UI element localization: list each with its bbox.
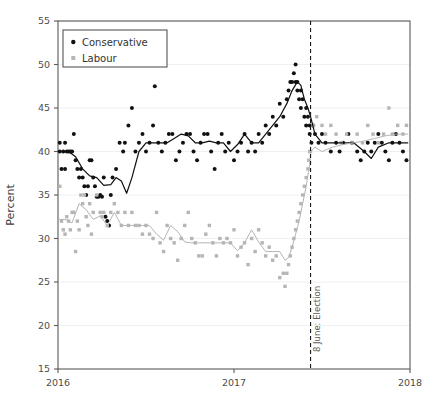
data-point-marker <box>89 158 93 162</box>
data-point-marker <box>268 246 271 249</box>
data-point-marker <box>292 71 296 75</box>
data-point-marker <box>174 158 178 162</box>
y-axis-title: Percent <box>4 184 17 226</box>
data-point-marker <box>404 158 408 162</box>
data-point-marker <box>181 141 185 145</box>
y-tick-label: 20 <box>38 320 50 331</box>
data-point-marker <box>83 193 86 196</box>
data-point-marker <box>264 123 268 127</box>
data-point-marker <box>253 250 256 253</box>
data-point-marker <box>151 237 154 240</box>
data-point-marker <box>195 158 199 162</box>
data-point-marker <box>285 272 288 275</box>
data-point-marker <box>232 228 235 231</box>
data-point-marker <box>133 150 137 154</box>
data-point-marker <box>58 185 61 188</box>
data-point-marker <box>160 150 164 154</box>
data-point-marker <box>118 141 122 145</box>
data-point-marker <box>213 167 217 171</box>
poll-tracker-scatter-chart: 152025303540455055 201620172018 8 June: … <box>0 0 441 416</box>
data-point-marker <box>95 193 98 196</box>
data-point-marker <box>172 241 175 244</box>
data-point-marker <box>81 202 84 205</box>
data-point-marker <box>278 276 281 279</box>
chart-legend[interactable]: ConservativeLabour <box>63 30 167 67</box>
data-point-marker <box>366 124 369 127</box>
legend-item-conservative[interactable]: Conservative <box>71 37 148 48</box>
data-point-marker <box>380 141 384 145</box>
data-point-marker <box>113 202 116 205</box>
data-point-marker <box>274 123 278 127</box>
data-point-marker <box>253 150 257 154</box>
data-point-marker <box>74 250 77 253</box>
data-point-marker <box>329 124 332 127</box>
data-point-marker <box>63 232 66 235</box>
data-point-marker <box>246 263 249 266</box>
data-point-marker <box>236 254 239 257</box>
data-point-marker <box>290 80 294 84</box>
y-tick-label: 55 <box>38 15 50 26</box>
data-point-marker <box>169 237 172 240</box>
data-point-marker <box>295 89 299 93</box>
data-point-marker <box>69 228 72 231</box>
data-point-marker <box>387 106 390 109</box>
data-point-marker <box>153 84 157 88</box>
data-point-marker <box>376 132 380 136</box>
x-tick-label: 2016 <box>46 377 70 388</box>
data-point-marker <box>100 195 104 199</box>
data-point-marker <box>86 224 89 227</box>
data-point-marker <box>141 232 144 235</box>
data-point-marker <box>345 132 348 135</box>
data-point-marker <box>111 176 115 180</box>
data-point-marker <box>373 141 377 145</box>
data-point-marker <box>121 150 125 154</box>
data-point-marker <box>116 211 119 214</box>
data-point-marker <box>396 124 399 127</box>
data-point-marker <box>60 167 64 171</box>
data-point-marker <box>383 150 387 154</box>
y-tick-label: 30 <box>38 233 50 244</box>
data-point-marker <box>82 184 86 188</box>
data-point-marker <box>201 254 204 257</box>
data-point-marker <box>320 124 323 127</box>
data-point-marker <box>209 150 213 154</box>
data-point-marker <box>215 254 218 257</box>
data-point-marker <box>60 219 63 222</box>
data-point-marker <box>282 272 285 275</box>
data-point-marker <box>236 150 240 154</box>
data-point-marker <box>232 158 236 162</box>
data-point-marker <box>334 132 337 135</box>
y-tick-label: 45 <box>38 102 50 113</box>
data-point-marker <box>257 228 260 231</box>
data-point-marker <box>306 115 310 119</box>
data-point-marker <box>324 132 327 135</box>
chart-root: 152025303540455055 201620172018 8 June: … <box>0 0 441 416</box>
data-point-marker <box>204 232 207 235</box>
data-point-marker <box>271 115 275 119</box>
data-point-marker <box>92 211 95 214</box>
data-point-marker <box>297 97 301 101</box>
legend-square-icon <box>71 56 75 60</box>
data-point-marker <box>208 224 211 227</box>
data-point-marker <box>77 176 81 180</box>
data-point-marker <box>294 63 298 67</box>
data-point-marker <box>260 241 263 244</box>
data-point-marker <box>72 132 76 136</box>
data-point-marker <box>126 123 130 127</box>
data-point-marker <box>338 150 342 154</box>
data-point-marker <box>62 228 65 231</box>
data-point-marker <box>130 211 133 214</box>
y-tick-label: 40 <box>38 146 50 157</box>
data-point-marker <box>278 102 282 106</box>
data-point-marker <box>227 141 231 145</box>
legend-label: Conservative <box>82 37 148 48</box>
legend-label: Labour <box>82 53 118 64</box>
data-point-marker <box>81 176 85 180</box>
data-point-marker <box>86 184 90 188</box>
data-point-marker <box>260 141 264 145</box>
data-point-marker <box>190 237 193 240</box>
data-point-marker <box>137 141 141 145</box>
data-point-marker <box>123 211 126 214</box>
data-point-marker <box>401 150 405 154</box>
data-point-marker <box>206 132 210 136</box>
